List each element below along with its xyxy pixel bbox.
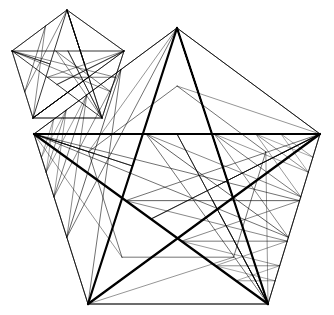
- small-pentagram: [12, 10, 124, 118]
- large-fractal-pentagram: [34, 28, 320, 304]
- fractal-star-diagram: [0, 0, 334, 315]
